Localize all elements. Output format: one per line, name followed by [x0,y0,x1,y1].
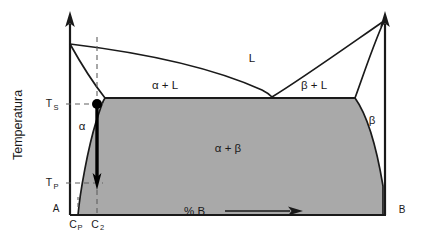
region-label-alpha: α [79,120,86,132]
region-label-beta: β [369,114,376,126]
tick-label-c2: C 2 [91,218,104,230]
phase-diagram-figure: Temperatura % B A B T S T P C P C 2 L α [0,0,426,230]
tick-label-cp-sub: P [77,223,82,230]
tick-label-c2-sub: 2 [100,223,104,230]
y-axis-title: Temperatura [11,90,25,160]
phase-diagram-canvas: Temperatura % B A B T S T P C P C 2 L α [0,0,426,230]
tick-label-ts: T S [46,97,59,112]
region-label-beta-plus-liquid: β + L [301,79,328,91]
region-label-alpha-plus-beta: α + β [215,142,242,154]
region-label-liquid: L [249,52,256,64]
liquidus-beta-curve [272,21,384,97]
solidus-beta-curve [355,21,384,98]
tick-label-cp: C P [69,218,82,230]
region-label-alpha-plus-liquid: α + L [152,79,179,91]
x-axis-title: % B [184,205,205,217]
tick-label-ts-base: T [46,97,53,109]
corner-label-b: B [399,204,406,215]
tick-label-c2-base: C [91,218,99,230]
corner-label-a: A [53,203,60,214]
solidus-alpha-curve [70,44,105,98]
tick-label-tp: T P [46,176,59,191]
tick-label-tp-sub: P [53,182,58,191]
tick-label-ts-sub: S [53,103,58,112]
tick-label-tp-base: T [46,176,53,188]
state-point-marker [92,99,102,109]
tick-label-cp-base: C [69,218,77,230]
alpha-plus-beta-fill [78,98,383,215]
